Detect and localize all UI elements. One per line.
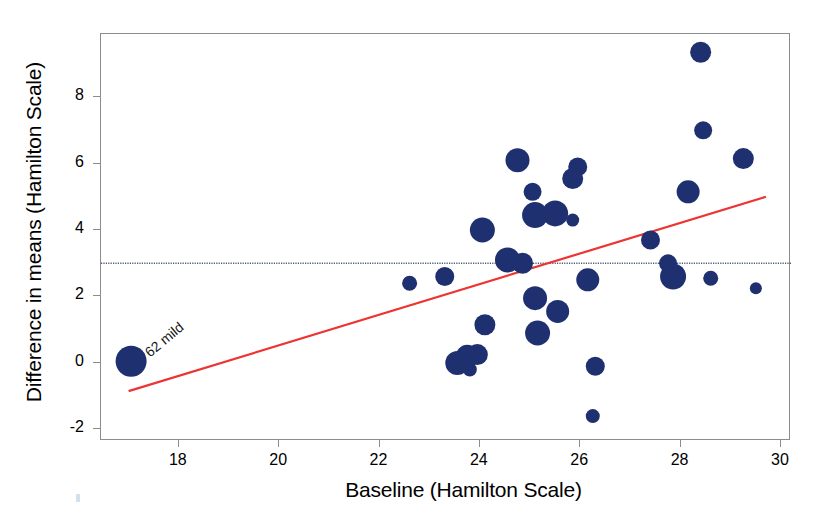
x-axis-title: Baseline (Hamilton Scale)	[100, 478, 827, 502]
data-point	[542, 200, 568, 226]
data-point	[470, 218, 495, 243]
data-point	[546, 300, 569, 323]
data-point	[116, 346, 147, 377]
scan-artifact	[76, 494, 80, 502]
data-point	[562, 168, 583, 189]
x-tick-label: 24	[459, 451, 499, 469]
y-tick-mark	[93, 229, 100, 230]
data-point	[703, 271, 718, 286]
x-tick-label: 28	[660, 451, 700, 469]
y-tick-label: 0	[44, 352, 84, 370]
x-tick-label: 18	[158, 451, 198, 469]
data-point	[524, 183, 542, 201]
data-point	[660, 264, 686, 290]
data-point	[506, 148, 530, 172]
y-tick-mark	[93, 362, 100, 363]
data-point	[525, 321, 550, 346]
data-point	[512, 253, 533, 274]
x-tick-mark	[178, 440, 179, 447]
y-tick-label: -2	[44, 418, 84, 436]
y-tick-mark	[93, 96, 100, 97]
x-tick-label: 22	[359, 451, 399, 469]
y-tick-mark	[93, 295, 100, 296]
data-point	[694, 121, 712, 139]
y-tick-label: 2	[44, 285, 84, 303]
x-tick-mark	[479, 440, 480, 447]
data-point	[677, 180, 700, 203]
plot-panel	[100, 33, 790, 440]
data-point	[750, 282, 762, 294]
x-tick-mark	[780, 440, 781, 447]
y-axis-title: Difference in means (Hamilton Scale)	[22, 12, 46, 452]
x-tick-mark	[379, 440, 380, 447]
x-tick-label: 20	[258, 451, 298, 469]
y-tick-label: 6	[44, 153, 84, 171]
x-tick-mark	[579, 440, 580, 447]
y-tick-mark	[93, 428, 100, 429]
data-point	[566, 214, 579, 227]
data-point	[641, 230, 660, 249]
data-point	[586, 409, 600, 423]
x-tick-label: 30	[760, 451, 800, 469]
data-point	[474, 314, 495, 335]
scatter-plot-figure: Difference in means (Hamilton Scale) Bas…	[0, 0, 827, 525]
x-tick-mark	[278, 440, 279, 447]
data-point	[733, 148, 754, 169]
data-point	[467, 344, 488, 365]
y-tick-label: 4	[44, 219, 84, 237]
data-point	[402, 276, 417, 291]
x-tick-mark	[680, 440, 681, 447]
data-point	[576, 268, 599, 291]
x-tick-label: 26	[559, 451, 599, 469]
data-point	[435, 267, 454, 286]
data-point	[523, 286, 547, 310]
plot-canvas	[101, 34, 791, 441]
data-point	[690, 42, 711, 63]
data-point	[586, 357, 605, 376]
y-tick-mark	[93, 163, 100, 164]
y-tick-label: 8	[44, 86, 84, 104]
